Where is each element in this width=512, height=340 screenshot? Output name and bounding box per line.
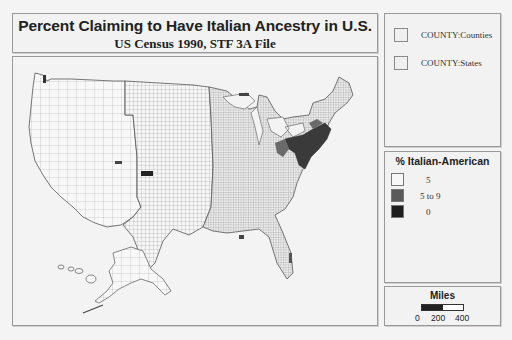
- legend-title: % Italian-American: [385, 155, 500, 167]
- aleutians: [83, 305, 103, 313]
- us-west: [29, 73, 141, 227]
- layer-counties[interactable]: COUNTY:Counties: [394, 28, 492, 42]
- michigan-upper: [239, 93, 249, 96]
- legend-swatch-low: [391, 173, 404, 186]
- layer-counties-swatch[interactable]: [394, 28, 408, 42]
- florida-mid: [289, 253, 292, 263]
- washington-dark: [43, 75, 46, 83]
- map-subtitle: US Census 1990, STF 3A File: [13, 36, 377, 52]
- us-east: [203, 77, 353, 279]
- legend-panel: % Italian-American 5 5 to 9 0: [384, 151, 501, 283]
- map-title: Percent Claiming to Have Italian Ancestr…: [13, 17, 377, 35]
- utah-mid: [115, 161, 122, 164]
- legend-label: 5: [426, 175, 431, 185]
- legend-label: 5 to 9: [420, 191, 441, 201]
- layer-counties-label: COUNTY:Counties: [421, 30, 492, 40]
- alaska: [95, 247, 171, 303]
- hawaii: [58, 265, 96, 283]
- scale-tick: 200: [431, 313, 445, 323]
- map-frame[interactable]: [12, 56, 378, 326]
- title-panel: Percent Claiming to Have Italian Ancestr…: [12, 13, 378, 53]
- legend-swatch-high: [391, 205, 404, 218]
- colorado-high: [141, 171, 153, 176]
- us-county-map[interactable]: [13, 57, 379, 327]
- scale-tick: 0: [415, 313, 420, 323]
- legend-item: 0: [391, 205, 431, 218]
- layers-panel: COUNTY:Counties COUNTY:States: [384, 13, 501, 147]
- scale-tick: 400: [455, 313, 469, 323]
- legend-label: 0: [426, 207, 431, 217]
- legend-item: 5 to 9: [391, 189, 441, 202]
- layer-states[interactable]: COUNTY:States: [394, 56, 482, 70]
- legend-item: 5: [391, 173, 431, 186]
- legend-swatch-mid: [391, 189, 404, 202]
- scale-title: Miles: [385, 290, 500, 301]
- layer-states-label: COUNTY:States: [421, 58, 482, 68]
- layer-states-swatch[interactable]: [394, 56, 408, 70]
- scale-panel: Miles 0 200 400: [384, 286, 501, 326]
- new-orleans: [239, 235, 244, 239]
- scale-bar: [421, 304, 464, 311]
